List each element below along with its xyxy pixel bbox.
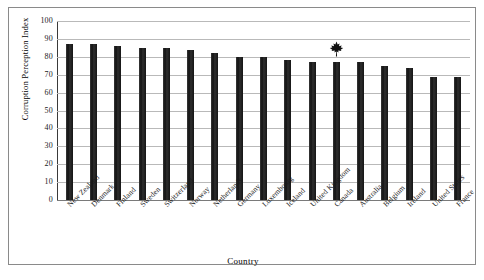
bar-belgium (381, 66, 388, 200)
y-tick-label-50: 50 (25, 107, 53, 115)
bar-netherlands (211, 53, 218, 200)
bar-united-states (430, 77, 437, 201)
y-tick-label-30: 30 (25, 142, 53, 150)
y-tick-label-10: 10 (25, 178, 53, 186)
gridline-100 (57, 21, 470, 22)
bar-switzerland (163, 48, 170, 200)
maple-leaf-icon (329, 41, 344, 57)
plot-area (57, 21, 470, 200)
bar-finland (114, 46, 121, 200)
y-tick-label-60: 60 (25, 89, 53, 97)
bar-sweden (139, 48, 146, 200)
x-axis-tick-labels: New ZealandDenmarkFinlandSwedenSwitzerla… (57, 201, 470, 263)
bar-new-zealand (66, 44, 73, 200)
gridline-90 (57, 39, 470, 40)
x-axis-title: Country (9, 256, 477, 266)
bar-ireland (406, 68, 413, 200)
y-axis-tick-labels: 1009080706050403020100 (19, 21, 53, 200)
y-tick-label-40: 40 (25, 124, 53, 132)
bar-australia (357, 62, 364, 200)
bar-luxembourg (260, 57, 267, 200)
y-tick-label-100: 100 (25, 17, 53, 25)
y-tick-label-90: 90 (25, 35, 53, 43)
y-tick-label-20: 20 (25, 160, 53, 168)
y-tick-label-70: 70 (25, 71, 53, 79)
y-tick-label-0: 0 (25, 196, 53, 204)
bar-united-kingdom (309, 62, 316, 200)
y-tick-label-80: 80 (25, 53, 53, 61)
chart-frame: Corruption Perception Index 100908070605… (8, 7, 476, 265)
